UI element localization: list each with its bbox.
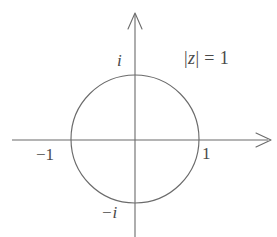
figure-canvas xyxy=(0,0,277,237)
complex-plane-figure: i −i −1 1 |z| = 1 xyxy=(0,0,277,237)
modulus-value: 1 xyxy=(220,48,229,68)
label-negative-one: −1 xyxy=(36,146,54,163)
modulus-variable: z xyxy=(188,48,195,68)
label-imaginary-unit: i xyxy=(117,52,122,69)
label-one: 1 xyxy=(202,145,211,162)
modulus-equals-sign: = xyxy=(204,48,215,68)
label-negative-imaginary-unit: −i xyxy=(101,204,117,221)
label-modulus-equation: |z| = 1 xyxy=(184,49,229,67)
modulus-bar-right: | xyxy=(195,49,199,67)
